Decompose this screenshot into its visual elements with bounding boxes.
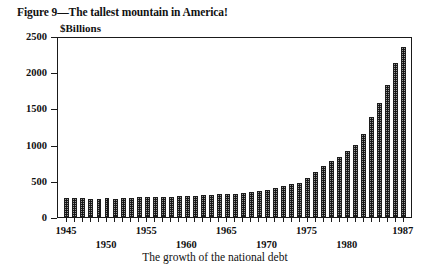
bar [289, 184, 294, 217]
x-axis-tick [347, 218, 348, 222]
x-axis-tick [291, 218, 292, 222]
bar [113, 199, 118, 217]
bar [97, 199, 102, 217]
y-axis-tick-label: 2000 [26, 68, 47, 79]
bar [265, 190, 270, 217]
x-axis-tick [186, 218, 187, 222]
bar [177, 196, 182, 217]
x-axis-tick-label: 1945 [55, 226, 76, 237]
bar [281, 186, 286, 217]
bar [393, 63, 398, 217]
bar [369, 117, 374, 217]
bar [217, 194, 222, 217]
x-axis-tick [395, 218, 396, 222]
x-axis-tick [307, 218, 308, 222]
y-axis-tick-label: 1500 [26, 104, 47, 115]
bar [193, 196, 198, 217]
x-axis-tick [146, 218, 147, 222]
x-axis-tick [363, 218, 364, 222]
bar [273, 188, 278, 217]
y-axis-tick [51, 218, 57, 219]
figure-caption: The growth of the national debt [0, 251, 430, 263]
x-axis-tick-label: 1970 [256, 240, 277, 251]
x-axis-tick [194, 218, 195, 222]
bar [321, 166, 326, 217]
x-axis-tick [106, 218, 107, 222]
bar [353, 145, 358, 217]
x-axis-tick [315, 218, 316, 222]
bar [361, 134, 366, 217]
plot-frame [57, 37, 412, 218]
x-axis-tick [114, 218, 115, 222]
x-axis-tick-label: 1975 [296, 226, 317, 237]
y-axis-tick-label: 2500 [26, 32, 47, 43]
bar [137, 197, 142, 217]
figure-national-debt: Figure 9—The tallest mountain in America… [0, 0, 430, 274]
x-axis-tick-label: 1950 [96, 240, 117, 251]
bar [121, 198, 126, 217]
x-axis-tick [299, 218, 300, 222]
bar [401, 47, 406, 217]
x-axis-tick [379, 218, 380, 222]
bar [241, 193, 246, 217]
bar [249, 192, 254, 217]
bar [185, 196, 190, 217]
x-axis-tick [74, 218, 75, 222]
bar [233, 194, 238, 217]
x-axis-tick-label: 1965 [216, 226, 237, 237]
bar [64, 198, 69, 217]
bar [72, 198, 77, 217]
x-axis-tick [130, 218, 131, 222]
x-axis-tick [138, 218, 139, 222]
bar [337, 157, 342, 217]
bar [385, 85, 390, 217]
x-axis-tick [170, 218, 171, 222]
bar [305, 178, 310, 217]
y-axis-tick-label: 0 [42, 213, 47, 224]
x-axis-tick-label: 1955 [136, 226, 157, 237]
x-axis-tick [274, 218, 275, 222]
x-axis-tick [90, 218, 91, 222]
bar [225, 194, 230, 217]
x-axis-tick [178, 218, 179, 222]
bar [105, 198, 110, 217]
bar [201, 195, 206, 217]
bar [313, 172, 318, 217]
bar [80, 198, 85, 217]
x-axis-tick [355, 218, 356, 222]
bar [209, 195, 214, 217]
x-axis-tick [250, 218, 251, 222]
bar [257, 191, 262, 217]
x-axis-tick [98, 218, 99, 222]
bar [161, 197, 166, 217]
figure-title: Figure 9—The tallest mountain in America… [17, 6, 228, 18]
y-axis-unit-label: $Billions [60, 22, 101, 34]
x-axis-tick [162, 218, 163, 222]
x-axis-tick [283, 218, 284, 222]
bar [329, 161, 334, 217]
x-axis-tick [122, 218, 123, 222]
bar [88, 199, 93, 217]
bar [377, 103, 382, 217]
x-axis-tick-label: 1987 [392, 226, 413, 237]
x-axis-tick [154, 218, 155, 222]
x-axis-tick [339, 218, 340, 222]
x-axis-tick [258, 218, 259, 222]
x-axis-tick [210, 218, 211, 222]
x-axis-tick [371, 218, 372, 222]
x-axis-tick [242, 218, 243, 222]
x-axis-tick-label: 1960 [176, 240, 197, 251]
bar [145, 197, 150, 217]
x-axis-tick [218, 218, 219, 222]
y-axis-tick-label: 1000 [26, 141, 47, 152]
x-axis-tick [331, 218, 332, 222]
plot-area [58, 38, 411, 217]
x-axis-tick [66, 218, 67, 222]
x-axis-tick [403, 218, 404, 222]
y-axis-tick-label: 500 [31, 177, 47, 188]
x-axis-tick [234, 218, 235, 222]
bar [345, 151, 350, 217]
bar [169, 197, 174, 217]
bar [153, 197, 158, 217]
x-axis-tick [387, 218, 388, 222]
